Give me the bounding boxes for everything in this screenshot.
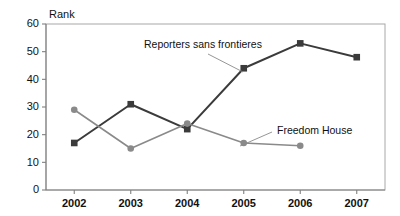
- rank-line-chart: 0102030405060 200220032004200520062007 R…: [0, 0, 400, 216]
- series-label-rsf: Reporters sans frontieres: [144, 38, 262, 50]
- data-point-marker: [353, 54, 360, 61]
- data-point-marker: [297, 40, 304, 47]
- annotation-layer: Reporters sans frontieresFreedom House: [144, 38, 352, 146]
- data-point-marker: [127, 145, 134, 152]
- data-point-marker: [127, 101, 134, 108]
- data-point-marker: [297, 142, 304, 149]
- series-label-freedom-house: Freedom House: [277, 124, 352, 136]
- y-tick-label: 10: [27, 156, 39, 168]
- y-tick-label: 60: [27, 17, 39, 29]
- data-point-marker: [184, 120, 191, 127]
- y-tick-label: 40: [27, 73, 39, 85]
- x-tick-label: 2006: [288, 197, 312, 209]
- y-axis-title: Rank: [49, 8, 75, 20]
- y-tick-label: 0: [33, 183, 39, 195]
- x-tick-label: 2003: [119, 197, 143, 209]
- y-axis-ticks: 0102030405060: [27, 17, 46, 195]
- x-axis-ticks: 200220032004200520062007: [62, 190, 369, 209]
- y-tick-label: 50: [27, 45, 39, 57]
- data-point-marker: [71, 140, 78, 147]
- chart-container: 0102030405060 200220032004200520062007 R…: [0, 0, 400, 216]
- y-tick-label: 20: [27, 128, 39, 140]
- data-point-marker: [71, 106, 78, 113]
- x-tick-label: 2005: [232, 197, 256, 209]
- x-tick-label: 2007: [345, 197, 369, 209]
- x-tick-label: 2002: [62, 197, 86, 209]
- annotation-leader-line: [208, 54, 243, 72]
- y-tick-label: 30: [27, 100, 39, 112]
- x-tick-label: 2004: [175, 197, 200, 209]
- data-point-marker: [240, 65, 247, 72]
